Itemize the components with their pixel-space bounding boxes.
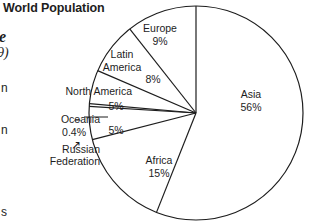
slice-label-russian-federation-value: 5% xyxy=(98,124,134,137)
slice-label-asia-value: 56% xyxy=(228,101,274,114)
slice-label-russian-federation: Russian Federation xyxy=(22,143,100,167)
oceania-arrow-icon: → xyxy=(72,113,83,124)
slice-label-asia: Asia 56% xyxy=(228,88,274,113)
slice-label-europe: Europe 9% xyxy=(132,22,188,47)
slice-label-oceania: Oceania 0.4% xyxy=(16,113,100,138)
slice-label-oceania-value: 0.4% xyxy=(16,126,100,139)
slice-label-north-america: North America xyxy=(28,85,132,98)
world-population-pie-chart-figure: World Population e 9) n n s xyxy=(0,0,311,224)
slice-label-africa-value: 15% xyxy=(134,167,184,180)
russia-arrow-icon: ↗ xyxy=(71,139,81,151)
slice-label-russian-federation-name-line1: Russian xyxy=(62,143,100,155)
slice-label-latin-america-name-line2: America xyxy=(94,61,150,74)
slice-label-africa: Africa 15% xyxy=(134,154,184,179)
slice-label-latin-america-name-line1: Latin xyxy=(111,48,134,60)
slice-label-north-america-name: North America xyxy=(65,85,132,97)
slice-label-latin-america-value: 8% xyxy=(138,73,168,86)
slice-label-africa-name: Africa xyxy=(146,154,173,166)
slice-label-europe-name: Europe xyxy=(143,22,177,34)
slice-label-europe-value: 9% xyxy=(132,35,188,48)
slice-label-latin-america: Latin America xyxy=(94,48,150,73)
slice-label-russian-federation-name-line2: Federation xyxy=(22,155,100,167)
slice-label-north-america-value: 5% xyxy=(98,100,134,113)
slice-label-asia-name: Asia xyxy=(241,88,261,100)
